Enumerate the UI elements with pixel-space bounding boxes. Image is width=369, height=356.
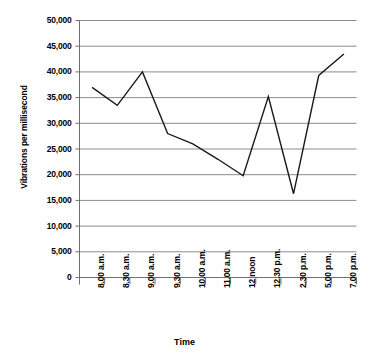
y-tick-label: 50,000 bbox=[0, 15, 72, 25]
y-tick-label: 5,000 bbox=[0, 246, 72, 256]
y-axis-title: Vibrations per millisecond bbox=[19, 57, 29, 217]
x-tick-label: 9.30 a.m. bbox=[172, 253, 182, 287]
series-line bbox=[92, 54, 344, 194]
x-tick-label: 8.30 a.m. bbox=[121, 253, 131, 287]
data-series-line bbox=[92, 54, 344, 194]
x-tick-label: 9.00 a.m. bbox=[146, 253, 156, 287]
y-tick-label: 25,000 bbox=[0, 144, 72, 154]
y-tick-label: 40,000 bbox=[0, 66, 72, 76]
gridlines bbox=[80, 21, 357, 252]
line-chart: 05,00010,00015,00020,00025,00030,00035,0… bbox=[0, 0, 369, 356]
x-tick-label: 12 noon bbox=[247, 256, 257, 287]
x-tick-label: 8.00 a.m. bbox=[96, 253, 106, 287]
y-tick-label: 10,000 bbox=[0, 221, 72, 231]
x-axis-title: Time bbox=[0, 337, 369, 347]
x-tick-label: 5.00 p.m. bbox=[323, 253, 333, 288]
y-tick-label: 20,000 bbox=[0, 169, 72, 179]
y-tick-label: 0 bbox=[0, 272, 72, 282]
x-tick-label: 7.00 p.m. bbox=[348, 253, 358, 288]
y-tick-label: 15,000 bbox=[0, 195, 72, 205]
y-tick-label: 35,000 bbox=[0, 92, 72, 102]
x-tick-label: 12.30 p.m. bbox=[272, 248, 282, 287]
y-tick-label: 45,000 bbox=[0, 41, 72, 51]
y-tick-marks bbox=[76, 21, 80, 278]
x-tick-label: 11.00 a.m. bbox=[222, 249, 232, 287]
x-tick-label: 10.00 a.m. bbox=[197, 249, 207, 288]
x-tick-label: 2.30 p.m. bbox=[298, 253, 308, 288]
y-tick-label: 30,000 bbox=[0, 118, 72, 128]
